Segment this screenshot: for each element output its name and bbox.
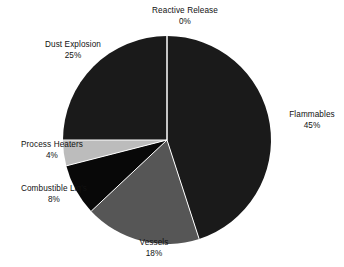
slice-label-percent: 4% [2,151,102,162]
slice-label-name: Dust Explosion [20,40,126,51]
slice-label-name: Combustible Liq's [0,184,108,195]
slice-label-percent: 0% [133,17,237,28]
slice-label-flammables: Flammables 45% [279,110,344,132]
slice-label-percent: 25% [20,51,126,62]
pie-chart: Reactive Release 0% Dust Explosion 25% F… [0,0,344,267]
slice-label-reactive-release: Reactive Release 0% [133,6,237,28]
slice-label-name: Flammables [279,110,344,121]
slice-label-name: Reactive Release [133,6,237,17]
slice-label-percent: 8% [0,195,108,206]
slice-label-name: Vessels [119,238,189,249]
slice-label-name: Process Heaters [2,140,102,151]
slice-label-dust-explosion: Dust Explosion 25% [20,40,126,62]
slice-label-percent: 45% [279,121,344,132]
slice-label-combustible-liqs: Combustible Liq's 8% [0,184,108,206]
slice-label-percent: 18% [119,249,189,260]
slice-label-vessels: Vessels 18% [119,238,189,260]
slice-label-process-heaters: Process Heaters 4% [2,140,102,162]
